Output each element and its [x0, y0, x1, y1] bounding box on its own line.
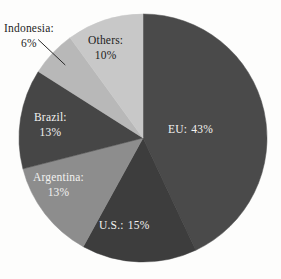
- pie-label-others: Others: 10%: [88, 33, 123, 62]
- pie-label-eu-value: 43%: [191, 123, 213, 135]
- pie-label-others-value: 10%: [88, 48, 123, 63]
- pie-label-others-name: Others:: [88, 33, 123, 48]
- pie-label-us-value: 15%: [128, 219, 150, 231]
- pie-label-argentina-name: Argentina:: [33, 170, 84, 185]
- pie-label-argentina: Argentina: 13%: [33, 170, 84, 199]
- pie-label-argentina-value: 13%: [33, 185, 84, 200]
- pie-label-brazil: Brazil: 13%: [34, 110, 67, 139]
- pie-label-us-name: U.S.:: [99, 219, 124, 231]
- pie-label-brazil-value: 13%: [34, 125, 67, 140]
- pie-label-eu-name: EU:: [168, 123, 187, 135]
- pie-chart-figure: EU: 43% U.S.: 15% Argentina: 13% Brazil:…: [0, 0, 281, 279]
- pie-label-indonesia: Indonesia: 6%: [4, 21, 54, 50]
- pie-label-eu: EU: 43%: [168, 118, 213, 138]
- pie-label-brazil-name: Brazil:: [34, 110, 67, 125]
- pie-label-indonesia-name: Indonesia:: [4, 21, 54, 36]
- pie-label-indonesia-value: 6%: [4, 36, 54, 51]
- pie-label-us: U.S.: 15%: [99, 214, 150, 234]
